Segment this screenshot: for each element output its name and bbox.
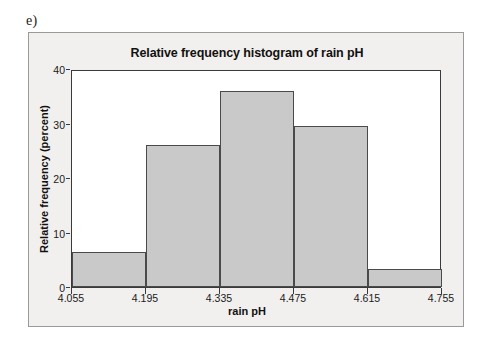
y-axis-tick-mark [66,124,70,125]
x-axis-tick-label: 4.615 [337,292,397,304]
histogram-bar [294,126,368,287]
y-axis-tick-mark [66,287,70,288]
x-axis-tick-label: 4.755 [411,292,471,304]
x-axis-title: rain pH [29,305,465,317]
figure-part-label: e) [26,13,37,29]
y-axis-tick-mark [66,69,70,70]
x-axis-tick-mark [219,288,220,294]
x-axis-tick-label: 4.475 [263,292,323,304]
chart-panel: Relative frequency histogram of rain pH … [28,32,464,327]
chart-title: Relative frequency histogram of rain pH [29,46,465,60]
x-axis-tick-mark [367,288,368,294]
bars-layer [72,71,440,287]
x-axis-tick-label: 4.055 [41,292,101,304]
x-axis-tick-label: 4.195 [115,292,175,304]
plot-area [71,70,441,288]
x-axis-tick-mark [145,288,146,294]
histogram-bar [368,269,442,287]
histogram-bar [146,145,220,287]
figure-root: e) Relative frequency histogram of rain … [0,0,487,349]
x-axis-tick-mark [441,288,442,294]
y-axis-title: Relative frequency (percent) [37,70,51,288]
x-axis-tick-mark [293,288,294,294]
histogram-bar [72,252,146,287]
x-axis-tick-mark [71,288,72,294]
y-axis-tick-mark [66,178,70,179]
histogram-bar [220,91,294,287]
x-axis-tick-label: 4.335 [189,292,249,304]
y-axis-tick-mark [66,233,70,234]
